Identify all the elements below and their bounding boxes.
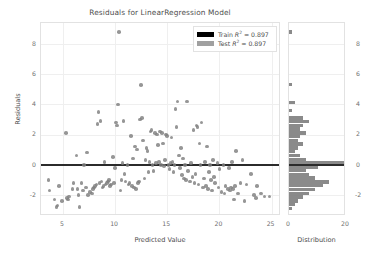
scatter-point [255, 184, 259, 188]
gridline-horizontal [289, 104, 344, 105]
histogram-bar [289, 101, 295, 104]
y-axis-tick-label: 8 [14, 40, 36, 47]
scatter-point [207, 170, 211, 174]
scatter-point [174, 107, 178, 111]
scatter-point [198, 142, 202, 146]
legend: Train R2 = 0.897 Test R2 = 0.897 [193, 26, 277, 52]
scatter-point [156, 143, 160, 147]
scatter-point [177, 154, 181, 158]
histogram-y-axis-tick-label: 2 [349, 130, 365, 137]
gridline-horizontal [41, 74, 279, 75]
scatter-point [178, 166, 182, 170]
x-axis-tick-label: 15 [156, 220, 176, 227]
scatter-point [120, 178, 124, 182]
scatter-point [236, 192, 240, 196]
scatter-point [66, 198, 70, 202]
scatter-point [239, 181, 243, 185]
scatter-point [129, 134, 133, 138]
scatter-point [199, 163, 203, 167]
scatter-point [67, 195, 71, 199]
scatter-point [139, 83, 143, 87]
histogram-y-axis-tick-label: 8 [349, 40, 365, 47]
scatter-point [230, 160, 234, 164]
scatter-point [143, 177, 147, 181]
gridline-horizontal [289, 44, 344, 45]
scatter-point [249, 172, 253, 176]
scatter-point [165, 134, 169, 138]
histogram-bar [289, 30, 292, 33]
scatter-point [47, 178, 51, 182]
page-title: Residuals for LinearRegression Model [0, 8, 320, 17]
scatter-point [263, 195, 267, 199]
histogram-bar [289, 207, 292, 210]
gridline-vertical [115, 23, 116, 214]
gridline-vertical [63, 23, 64, 214]
histogram-panel [288, 22, 345, 215]
scatter-point [71, 187, 75, 191]
histogram-plot-area [289, 23, 344, 214]
scatter-point [170, 136, 174, 140]
histogram-x-axis-tick-label: 20 [335, 220, 355, 227]
scatter-point [78, 205, 82, 209]
scatter-point [173, 163, 177, 167]
scatter-point [144, 158, 148, 162]
scatter-point [233, 184, 237, 188]
y-axis-tick-label: 6 [14, 70, 36, 77]
scatter-point [186, 169, 190, 173]
scatter-point [112, 181, 116, 185]
histogram-y-axis-tick-label: 0 [349, 161, 365, 168]
scatter-point [96, 122, 100, 126]
scatter-point [183, 163, 187, 167]
scatter-point [103, 160, 107, 164]
scatter-point [196, 125, 200, 129]
scatter-point [163, 158, 167, 162]
y-axis-label: Residuals [14, 79, 22, 139]
scatter-point [185, 100, 189, 104]
scatter-point [113, 166, 117, 170]
scatter-point [254, 196, 258, 200]
scatter-point [60, 199, 64, 203]
scatter-point [212, 175, 216, 179]
scatter-point [76, 187, 80, 191]
legend-swatch-test [197, 41, 214, 46]
histogram-x-axis-tick-label: 0 [278, 220, 298, 227]
scatter-point [202, 177, 206, 181]
gridline-horizontal [289, 74, 344, 75]
legend-swatch-train [197, 32, 214, 37]
residuals-figure: Residuals for LinearRegression Model 864… [0, 0, 365, 265]
scatter-point [179, 146, 183, 150]
x-axis-tick-label: 10 [104, 220, 124, 227]
scatter-point [197, 183, 201, 187]
scatter-point [205, 145, 209, 149]
x-axis-tick-label: 5 [52, 220, 72, 227]
zero-reference-line-histogram [289, 164, 344, 166]
histogram-y-axis-tick-label: 6 [349, 70, 365, 77]
scatter-point [56, 204, 60, 208]
scatter-point [192, 128, 196, 132]
scatter-point [99, 119, 103, 123]
scatter-point [72, 181, 76, 185]
y-axis-tick-label: 0 [14, 161, 36, 168]
legend-label-test: Test R2 = 0.897 [218, 39, 266, 47]
scatter-point [232, 198, 236, 202]
scatter-point [135, 148, 139, 152]
scatter-point [193, 181, 197, 185]
scatter-point [48, 189, 52, 193]
scatter-point [146, 149, 150, 153]
histogram-y-axis-tick-label: -2 [349, 191, 365, 198]
scatter-point [100, 180, 104, 184]
scatter-point [243, 199, 247, 203]
scatter-point [147, 170, 151, 174]
scatter-point [77, 193, 81, 197]
scatter-point [160, 131, 164, 135]
scatter-point [97, 110, 101, 114]
scatter-point [245, 183, 249, 187]
scatter-point [111, 155, 115, 159]
scatter-point [161, 142, 165, 146]
scatter-point [211, 158, 215, 162]
legend-label-train: Train R2 = 0.897 [218, 30, 269, 38]
scatter-point [152, 169, 156, 173]
legend-item-test: Test R2 = 0.897 [197, 39, 272, 48]
scatter-point [107, 178, 111, 182]
scatter-point [90, 192, 94, 196]
